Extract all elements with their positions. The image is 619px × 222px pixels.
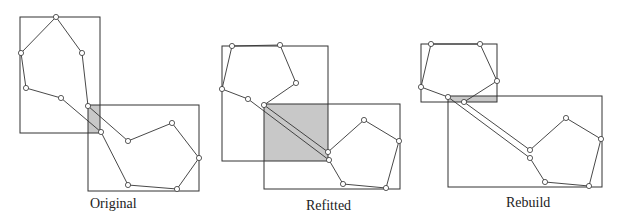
vertex-marker [598, 136, 603, 141]
vertex-marker [340, 181, 345, 186]
bounding-box [421, 44, 497, 102]
vertex-marker [293, 80, 298, 85]
vertex-marker [563, 115, 568, 120]
vertex-marker [219, 86, 224, 91]
vertex-marker [125, 182, 130, 187]
vertex-marker [79, 50, 84, 55]
vertex-marker [494, 78, 499, 83]
vertex-marker [98, 129, 103, 134]
vertex-marker [85, 103, 90, 108]
vertex-marker [527, 155, 532, 160]
vertex-marker [428, 41, 433, 46]
panel-label-rebuild: Rebuild [506, 195, 550, 211]
vertex-marker [461, 99, 466, 104]
vertex-marker [586, 183, 591, 188]
vertex-marker [445, 94, 450, 99]
vertex-marker [326, 157, 331, 162]
vertex-marker [396, 138, 401, 143]
panel-original [18, 14, 201, 191]
vertex-marker [18, 50, 23, 55]
vertex-marker [125, 138, 130, 143]
vertex-marker [383, 185, 388, 190]
overlap-region [88, 105, 100, 133]
vertex-marker [277, 42, 282, 47]
bounding-box [88, 105, 199, 191]
diagram-canvas [0, 0, 619, 222]
panel-refitted [219, 42, 401, 190]
vertex-marker [245, 96, 250, 101]
bounding-box [448, 96, 602, 187]
vertex-marker [169, 120, 174, 125]
vertex-marker [477, 41, 482, 46]
vertex-marker [325, 149, 330, 154]
panel-label-original: Original [90, 196, 137, 212]
polygon-outline [21, 17, 199, 189]
vertex-marker [174, 186, 179, 191]
vertex-marker [542, 179, 547, 184]
vertex-marker [527, 147, 532, 152]
vertex-marker [361, 117, 366, 122]
panel-rebuild [418, 41, 603, 188]
panel-label-refitted: Refitted [306, 198, 351, 214]
vertex-marker [261, 102, 266, 107]
vertex-marker [58, 95, 63, 100]
vertex-marker [229, 43, 234, 48]
vertex-marker [196, 155, 201, 160]
vertex-marker [23, 85, 28, 90]
vertex-marker [53, 14, 58, 19]
vertex-marker [418, 84, 423, 89]
